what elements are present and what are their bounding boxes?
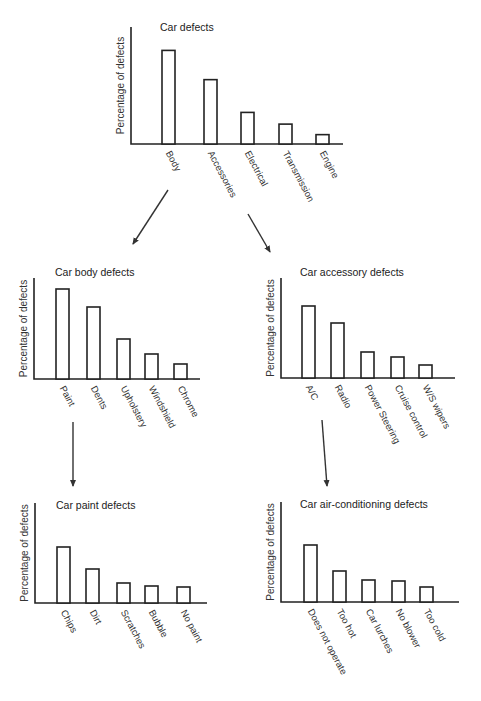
drilldown-arrows bbox=[73, 190, 327, 486]
chart-title: Car defects bbox=[160, 21, 214, 33]
category-label: Radio bbox=[333, 383, 354, 410]
bar-windshield bbox=[145, 354, 158, 379]
category-label: Windshield bbox=[147, 384, 179, 430]
category-label: Transmission bbox=[281, 149, 317, 204]
category-label: Dirt bbox=[88, 608, 105, 627]
bar-paint bbox=[56, 289, 69, 379]
chart-title: Car body defects bbox=[55, 266, 134, 278]
bar-no-blower bbox=[392, 581, 405, 602]
category-label: Engine bbox=[318, 149, 342, 180]
bar-dirt bbox=[86, 569, 99, 603]
bar-body bbox=[162, 50, 175, 144]
chart-title: Car paint defects bbox=[56, 499, 135, 511]
category-label: A/C bbox=[304, 383, 321, 402]
bar-chrome bbox=[174, 364, 187, 379]
y-axis-label: Percentage of defects bbox=[115, 37, 126, 134]
chart-title: Car air-conditioning defects bbox=[300, 498, 428, 510]
bar-a-c bbox=[302, 306, 315, 378]
bar-dents bbox=[87, 307, 100, 379]
category-label: Accessories bbox=[206, 149, 240, 200]
category-label: No paint bbox=[179, 608, 205, 645]
bar-transmission bbox=[279, 124, 292, 144]
category-label: W/S wipers bbox=[421, 383, 453, 431]
bar-engine bbox=[316, 135, 329, 144]
category-label: Body bbox=[164, 149, 184, 174]
pareto-drilldown-diagram: Car defectsPercentage of defectsBodyAcce… bbox=[0, 0, 481, 701]
arrow-body-to-body-defects bbox=[133, 190, 168, 244]
body-chart: Car body defectsPercentage of defectsPai… bbox=[18, 266, 201, 430]
category-label: Car lurches bbox=[364, 607, 397, 655]
y-axis-label: Percentage of defects bbox=[19, 504, 30, 601]
category-label: Paint bbox=[58, 384, 78, 409]
bar-too-cold bbox=[420, 587, 433, 602]
bar-electrical bbox=[241, 112, 254, 144]
bar-accessories bbox=[204, 80, 217, 144]
bar-car-lurches bbox=[362, 580, 375, 602]
y-axis-label: Percentage of defects bbox=[265, 503, 276, 600]
category-label: No blower bbox=[394, 607, 424, 650]
category-label: Electrical bbox=[243, 149, 271, 188]
bar-too-hot bbox=[333, 571, 346, 602]
y-axis-label: Percentage of defects bbox=[18, 280, 29, 377]
category-label: Upholstery bbox=[119, 384, 150, 429]
category-label: Too cold bbox=[422, 607, 448, 643]
bar-chips bbox=[57, 547, 70, 603]
bar-radio bbox=[331, 323, 344, 378]
bar-bubble bbox=[145, 586, 158, 603]
category-label: Bubble bbox=[147, 608, 171, 639]
bar-does-not-operate bbox=[304, 545, 317, 602]
category-label: Scratches bbox=[119, 608, 149, 651]
car-chart: Car defectsPercentage of defectsBodyAcce… bbox=[115, 21, 343, 204]
category-label: Chrome bbox=[176, 384, 202, 419]
airconditioning-chart: Car air-conditioning defectsPercentage o… bbox=[265, 498, 459, 676]
chart-title: Car accessory defects bbox=[300, 266, 404, 278]
bar-power-steering bbox=[361, 352, 374, 378]
bar-cruise-control bbox=[391, 357, 404, 378]
accessory-chart: Car accessory defectsPercentage of defec… bbox=[265, 266, 455, 445]
y-axis-label: Percentage of defects bbox=[265, 279, 276, 376]
category-label: Chips bbox=[59, 608, 80, 635]
category-label: Too hot bbox=[335, 607, 360, 640]
category-label: Dents bbox=[89, 384, 110, 411]
bar-upholstery bbox=[117, 339, 130, 379]
bar-no-paint bbox=[177, 587, 190, 603]
paint-chart: Car paint defectsPercentage of defectsCh… bbox=[19, 499, 207, 650]
arrow-ac-to-airconditioning-defects bbox=[322, 420, 327, 486]
bar-scratches bbox=[117, 583, 130, 603]
bar-w-s-wipers bbox=[419, 365, 432, 378]
arrow-accessories-to-accessory-defects bbox=[248, 214, 270, 252]
